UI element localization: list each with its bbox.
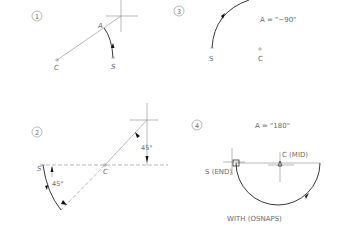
equation: A = "180" [255, 122, 290, 130]
dimension-arrow [135, 132, 140, 138]
panel-1: 1 A C S [32, 0, 138, 72]
label-s: S [209, 55, 214, 63]
arc-path [236, 163, 320, 205]
dimension-arrow [51, 166, 54, 172]
equation: A = "−90" [260, 16, 296, 24]
label-c: C [54, 64, 59, 72]
arc-path [104, 28, 113, 58]
panel-3: 3 A = "−90" S C [174, 0, 296, 63]
diagonal-extension [61, 165, 105, 210]
chord-line [57, 16, 121, 60]
dimension-arrow [146, 156, 149, 163]
label-s: S [37, 165, 42, 173]
panel-2: 2 45° 45° S C [32, 103, 168, 210]
label-s-end: S (END) [205, 168, 232, 176]
panel-number: 1 [35, 13, 39, 21]
label-c: C [258, 55, 263, 63]
panel-4: 4 A = "180" C (MID) S (END) WITH (OSNAPS… [192, 120, 320, 223]
arc-construction-diagram: 1 A C S 3 A = "−90" S C 2 [0, 0, 339, 242]
angle-label-bottom: 45° [52, 180, 64, 188]
dimension-arrow [61, 200, 67, 205]
panel-number: 2 [35, 129, 39, 137]
panel-number: 4 [195, 122, 199, 130]
caption: WITH (OSNAPS) [227, 215, 282, 223]
panel-number: 3 [177, 8, 181, 16]
label-c: C [103, 168, 108, 176]
label-a: A [97, 22, 103, 30]
label-s: S [111, 63, 116, 71]
arc-path [212, 0, 249, 48]
angle-label-top: 45° [141, 144, 153, 152]
arc-arrowhead [45, 185, 48, 190]
diagonal-line [105, 120, 147, 165]
label-c-mid: C (MID) [282, 151, 308, 159]
